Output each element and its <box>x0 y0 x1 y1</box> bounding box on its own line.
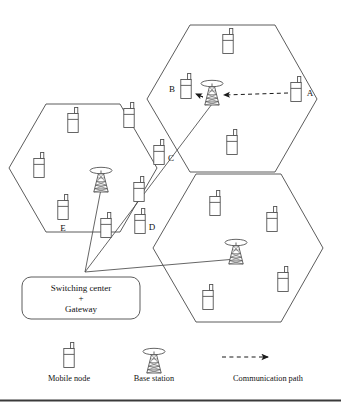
node-label-a: A <box>307 88 314 98</box>
mobile-node-a[interactable] <box>291 77 301 102</box>
legend: Mobile node Base station Communication p… <box>48 343 304 384</box>
mobile-node[interactable] <box>34 153 44 178</box>
mobile-node-d[interactable] <box>135 209 145 234</box>
legend-base-station-icon <box>143 348 165 373</box>
mobile-node[interactable] <box>101 213 111 238</box>
legend-mobile-node-label: Mobile node <box>48 374 90 383</box>
mobile-node-e[interactable] <box>58 195 68 220</box>
mobile-node[interactable] <box>210 191 220 216</box>
mobile-node-c[interactable] <box>154 140 164 165</box>
legend-communication-path-label: Communication path <box>233 374 304 383</box>
node-label-c: C <box>168 153 174 163</box>
mobile-node[interactable] <box>278 267 288 292</box>
figure-canvas: B A C E D Switching center + Gateway Mob… <box>0 0 341 411</box>
node-label-b: B <box>169 84 175 94</box>
left-hexagon <box>9 104 157 232</box>
mobile-node[interactable] <box>203 285 213 310</box>
legend-mobile-node-icon <box>64 343 74 368</box>
mobile-node[interactable] <box>124 103 134 128</box>
mobile-node-b[interactable] <box>181 74 191 99</box>
node-label-e: E <box>60 223 66 233</box>
base-station-bottom-right[interactable] <box>225 239 247 264</box>
switching-center-line-2: + <box>78 293 83 303</box>
backhaul-link-left <box>85 189 101 272</box>
mobile-node[interactable] <box>227 130 237 155</box>
mobile-node[interactable] <box>134 177 144 202</box>
mobile-nodes <box>34 29 301 310</box>
backhaul-links <box>85 104 236 272</box>
mobile-node[interactable] <box>267 207 277 232</box>
switching-center-line-1: Switching center <box>51 283 112 293</box>
comm-path-base-station-to-b-tail <box>199 96 203 98</box>
base-station-left[interactable] <box>90 167 112 192</box>
comm-path-a-to-base-station <box>224 93 288 95</box>
legend-base-station-label: Base station <box>134 374 175 383</box>
switching-center-box[interactable]: Switching center + Gateway <box>22 277 140 319</box>
cellular-network-diagram: B A C E D Switching center + Gateway Mob… <box>0 0 341 411</box>
base-station-top-right[interactable] <box>201 80 223 105</box>
mobile-node[interactable] <box>223 29 233 54</box>
mobile-node[interactable] <box>68 108 78 133</box>
switching-center-line-3: Gateway <box>65 304 97 314</box>
node-label-d: D <box>149 222 156 232</box>
